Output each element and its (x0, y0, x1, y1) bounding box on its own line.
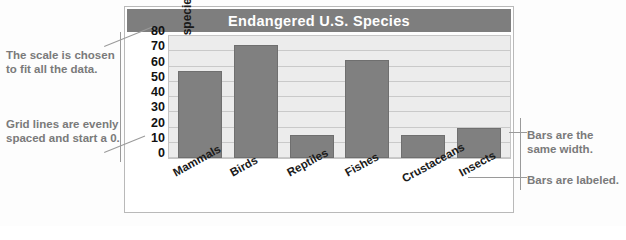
y-tick-label: 70 (151, 40, 165, 53)
bar-birds (234, 45, 278, 158)
y-tick-label: 80 (151, 25, 165, 38)
y-tick-label: 0 (158, 147, 165, 160)
y-tick-label: 50 (151, 71, 165, 84)
annotation-bar-width: Bars are the same width. (527, 128, 623, 156)
leader-line-scale-vertical (120, 32, 121, 162)
bar-fishes (345, 60, 389, 158)
annotation-scale: The scale is chosen to fit all the data. (6, 48, 124, 76)
annotation-gridlines: Grid lines are evenly spaced and start a… (6, 117, 128, 145)
annotation-bar-labels: Bars are labeled. (527, 173, 623, 187)
y-tick-label: 20 (151, 117, 165, 130)
y-tick-label: 10 (151, 132, 165, 145)
bars-container (169, 36, 510, 158)
y-tick-label: 30 (151, 101, 165, 114)
leader-line-insects-callout (468, 177, 522, 178)
x-axis-tick-labels: MammalsBirdsReptilesFishesCrustaceansIns… (168, 160, 511, 206)
y-tick-label: 60 (151, 56, 165, 69)
leader-line-bar-width (509, 132, 527, 133)
y-axis-tick-labels: 01020304050607080 (145, 28, 165, 166)
leader-line-right-vertical (520, 118, 521, 190)
y-tick-label: 40 (151, 86, 165, 99)
